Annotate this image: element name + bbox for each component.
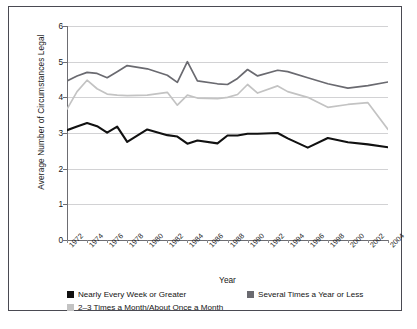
y-tick-label-4: 4 xyxy=(49,92,63,102)
series-line-2 xyxy=(67,62,388,88)
x-tick-mark-1994 xyxy=(288,240,289,243)
chart-figure: Average Number of Circumstances Legal Ye… xyxy=(8,6,402,311)
y-tick-mark-4 xyxy=(63,97,67,98)
legend-item-2-3-times-a-month: 2–3 Times a Month/About Once a Month xyxy=(67,303,223,312)
x-tick-mark-1998 xyxy=(328,240,329,243)
legend-swatch-several-times-a-year xyxy=(247,291,254,298)
series-line-1 xyxy=(67,80,388,129)
y-tick-label-0: 0 xyxy=(49,235,63,245)
x-tick-mark-1982 xyxy=(167,240,168,243)
x-tick-mark-2002 xyxy=(368,240,369,243)
series-lines xyxy=(67,26,388,241)
legend-row-1: Nearly Every Week or Greater Several Tim… xyxy=(67,290,397,301)
legend-label-several-times-a-year: Several Times a Year or Less xyxy=(258,290,363,299)
x-tick-mark-1978 xyxy=(127,240,128,243)
x-tick-mark-2004 xyxy=(388,240,389,243)
x-tick-mark-1986 xyxy=(207,240,208,243)
x-axis-title: Year xyxy=(67,275,388,285)
legend-item-nearly-every-week: Nearly Every Week or Greater xyxy=(67,290,186,299)
legend-item-several-times-a-year: Several Times a Year or Less xyxy=(247,290,363,299)
y-tick-label-2: 2 xyxy=(49,164,63,174)
y-tick-label-5: 5 xyxy=(49,57,63,67)
y-tick-label-1: 1 xyxy=(49,199,63,209)
x-tick-mark-1976 xyxy=(107,240,108,243)
legend-swatch-nearly-every-week xyxy=(67,291,74,298)
x-tick-mark-1972 xyxy=(67,240,68,243)
y-tick-label-6: 6 xyxy=(49,21,63,31)
x-tick-mark-1988 xyxy=(228,240,229,243)
y-tick-label-3: 3 xyxy=(49,128,63,138)
x-tick-mark-1984 xyxy=(187,240,188,243)
legend-label-2-3-times-a-month: 2–3 Times a Month/About Once a Month xyxy=(78,303,223,312)
y-tick-mark-1 xyxy=(63,204,67,205)
chart-legend: Nearly Every Week or Greater Several Tim… xyxy=(67,290,397,312)
figure-caption-cropped xyxy=(8,315,308,325)
x-tick-mark-1980 xyxy=(147,240,148,243)
legend-row-2: 2–3 Times a Month/About Once a Month xyxy=(67,301,397,312)
y-tick-mark-3 xyxy=(63,133,67,134)
x-tick-label-2004: 2004 xyxy=(388,231,406,249)
x-tick-mark-1996 xyxy=(308,240,309,243)
x-tick-mark-1990 xyxy=(248,240,249,243)
x-tick-mark-1992 xyxy=(268,240,269,243)
chart-plot-wrapper: Average Number of Circumstances Legal Ye… xyxy=(9,7,403,312)
y-axis-title: Average Number of Circumstances Legal xyxy=(36,17,46,207)
y-tick-mark-6 xyxy=(63,26,67,27)
x-tick-mark-2000 xyxy=(348,240,349,243)
series-line-0 xyxy=(67,123,388,148)
x-tick-mark-1974 xyxy=(87,240,88,243)
legend-label-nearly-every-week: Nearly Every Week or Greater xyxy=(78,290,186,299)
y-tick-mark-5 xyxy=(63,62,67,63)
legend-swatch-2-3-times-a-month xyxy=(67,304,74,311)
y-tick-mark-2 xyxy=(63,169,67,170)
